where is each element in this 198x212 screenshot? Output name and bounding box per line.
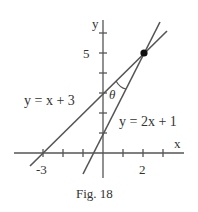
y-axis-label: y (92, 16, 99, 31)
y-tick-label-5: 5 (83, 46, 90, 61)
figure-caption: Fig. 18 (76, 186, 113, 201)
angle-arc (116, 81, 126, 89)
x-tick-label-neg3: -3 (36, 162, 47, 177)
figure-diagram: y x 5 -3 2 θ y = x + 3 y = 2x + 1 Fig. 1… (0, 0, 198, 212)
equation-label-line1: y = x + 3 (24, 93, 75, 108)
theta-label: θ (109, 87, 116, 102)
line-y-equals-2x-plus-1 (83, 22, 160, 174)
equation-label-line2: y = 2x + 1 (119, 114, 177, 129)
intersection-point (140, 49, 147, 56)
x-axis-label: x (174, 136, 181, 151)
x-tick-label-2: 2 (139, 162, 146, 177)
